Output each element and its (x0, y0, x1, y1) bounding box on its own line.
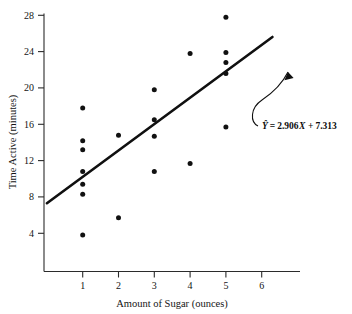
data-point (223, 60, 228, 65)
data-point (80, 182, 85, 187)
x-tick-label-3: 3 (152, 280, 157, 291)
data-point (80, 138, 85, 143)
y-tick-label-16: 16 (24, 119, 34, 130)
data-point (116, 215, 121, 220)
data-point (80, 169, 85, 174)
equation-plus: + (308, 121, 313, 131)
data-point (223, 125, 228, 130)
y-axis-ticks (38, 15, 44, 233)
data-point (80, 106, 85, 111)
equation-xvar: X (298, 121, 306, 131)
data-point (152, 117, 157, 122)
data-point (223, 71, 228, 76)
x-tick-label-2: 2 (116, 280, 121, 291)
x-axis-ticks (83, 272, 262, 278)
y-tick-label-8: 8 (29, 191, 34, 202)
equation-slope: 2.906 (277, 121, 299, 131)
data-point (80, 192, 85, 197)
y-tick-label-20: 20 (24, 82, 34, 93)
callout-curve (252, 72, 288, 126)
y-tick-label-28: 28 (24, 10, 34, 21)
equation-intercept: 7.313 (315, 121, 337, 131)
data-point (80, 147, 85, 152)
data-point (188, 161, 193, 166)
scatter-plot-figure: 28 24 20 16 12 8 4 1 2 3 4 5 6 Amount o (0, 0, 352, 314)
data-point (152, 87, 157, 92)
data-point (223, 15, 228, 20)
x-axis-tick-labels: 1 2 3 4 5 6 (80, 280, 264, 291)
regression-line (47, 37, 273, 203)
x-tick-label-5: 5 (223, 280, 228, 291)
x-axis-title: Amount of Sugar (ounces) (116, 298, 228, 310)
equation-callout (252, 72, 293, 126)
equation-yhat: Ŷ (262, 120, 269, 131)
plot-canvas: 28 24 20 16 12 8 4 1 2 3 4 5 6 Amount o (0, 0, 352, 314)
data-points-layer (80, 15, 228, 238)
regression-equation-label: Ŷ=2.906X+7.313 (262, 120, 337, 131)
x-tick-label-1: 1 (80, 280, 85, 291)
data-point (223, 50, 228, 55)
data-point (116, 133, 121, 138)
x-tick-label-4: 4 (188, 280, 193, 291)
data-point (152, 134, 157, 139)
y-tick-label-24: 24 (24, 46, 34, 57)
data-point (152, 169, 157, 174)
y-axis-tick-labels: 28 24 20 16 12 8 4 (24, 10, 34, 239)
y-tick-label-4: 4 (29, 228, 34, 239)
equation-equals: = (270, 121, 275, 131)
data-point (80, 233, 85, 238)
y-axis-title: Time Active (minutes) (7, 94, 19, 189)
x-tick-label-6: 6 (259, 280, 264, 291)
data-point (188, 51, 193, 56)
y-tick-label-12: 12 (24, 155, 34, 166)
